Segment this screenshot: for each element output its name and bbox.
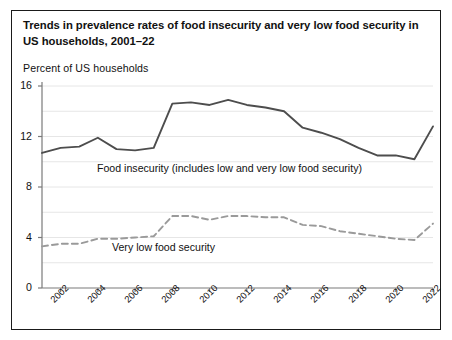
- series-line-0: [42, 100, 433, 159]
- y-tick-label: 4: [6, 231, 32, 243]
- y-tick-label: 12: [6, 130, 32, 142]
- series-line-1: [42, 216, 433, 246]
- series-label-food-insecurity: Food insecurity (includes low and very l…: [97, 162, 362, 174]
- y-tick-label: 0: [6, 281, 32, 293]
- y-tick-label: 8: [6, 180, 32, 192]
- axis-lines: [42, 82, 433, 288]
- y-tick-label: 16: [6, 79, 32, 91]
- series-label-very-low-food-security: Very low food security: [112, 241, 215, 253]
- chart-figure: Trends in prevalence rates of food insec…: [0, 0, 452, 340]
